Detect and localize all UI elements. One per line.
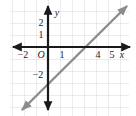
x-tick-label-5: 5 <box>110 49 115 60</box>
x-tick-label-neg2: −2 <box>18 49 29 60</box>
graph-canvas: x y O −2 1 4 5 2 1 −2 <box>0 0 136 116</box>
x-tick-label-1: 1 <box>60 49 65 60</box>
y-tick-label-1: 1 <box>39 29 44 40</box>
x-axis-label: x <box>119 49 125 60</box>
y-axis-label: y <box>54 7 60 18</box>
y-tick-label-2: 2 <box>39 17 44 28</box>
origin-label: O <box>37 49 44 60</box>
y-tick-label-neg2: −2 <box>33 69 44 80</box>
x-tick-label-4: 4 <box>96 49 101 60</box>
coordinate-plane-figure: x y O −2 1 4 5 2 1 −2 <box>0 0 136 116</box>
